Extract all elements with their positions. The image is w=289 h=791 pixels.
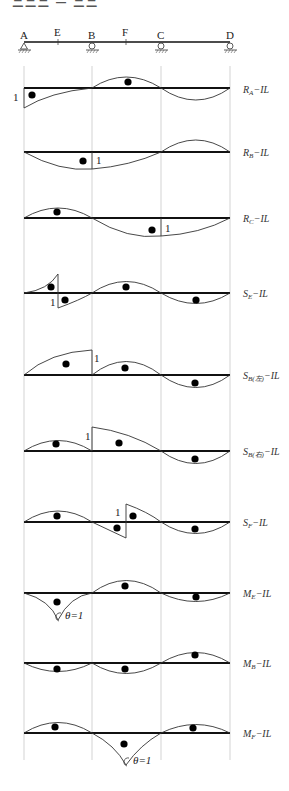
diagram-label-sb-left: SB(左)−IL	[243, 370, 280, 383]
diagram-me-il: θ=1 ME−IL	[24, 581, 272, 622]
diagram-label-ra: RA−IL	[242, 84, 269, 97]
plus-sign-icon	[79, 157, 86, 164]
diagram-sf-il: 1 SF−IL	[24, 504, 268, 538]
minus-sign-icon	[62, 360, 69, 367]
minus-sign-icon	[129, 512, 136, 519]
plus-sign-icon	[113, 524, 120, 531]
diagram-label-se: SE−IL	[243, 288, 268, 301]
minus-sign-icon	[120, 740, 127, 747]
minus-sign-icon	[121, 582, 128, 589]
diagram-label-sb-right: SB(右)−IL	[243, 446, 280, 459]
point-label-e: E	[54, 26, 61, 38]
roller-support-b-icon	[86, 43, 99, 53]
diagram-rb-il: 1 RB−IL	[24, 140, 269, 169]
diagram-label-sf: SF−IL	[243, 517, 268, 530]
rc-unit-label: 1	[165, 222, 171, 234]
plus-sign-icon	[61, 296, 68, 303]
diagram-label-me: ME−IL	[242, 588, 272, 601]
support-guide-lines	[24, 66, 230, 760]
ra-unit-label: 1	[13, 91, 19, 103]
point-labels: A E B F C D	[20, 26, 234, 41]
sb-right-unit-label: 1	[85, 430, 91, 442]
rb-unit-label: 1	[96, 154, 102, 166]
plus-sign-icon	[192, 296, 199, 303]
diagram-label-mf: MF−IL	[242, 728, 272, 741]
influence-line-diagram: A E B F C D	[0, 0, 289, 791]
diagram-label-mb: MB−IL	[242, 658, 272, 671]
roller-support-d-icon	[224, 43, 237, 53]
plus-sign-icon	[191, 379, 198, 386]
minus-sign-icon	[121, 364, 128, 371]
diagram-mb-il: MB−IL	[24, 651, 272, 673]
plus-sign-icon	[191, 651, 198, 658]
plus-sign-icon	[189, 724, 196, 731]
minus-sign-icon	[53, 665, 60, 672]
diagram-se-il: 1 SE−IL	[24, 274, 268, 308]
point-label-f: F	[122, 26, 128, 38]
beam-structure: A E B F C D	[18, 26, 237, 53]
sf-unit-label: 1	[115, 506, 121, 518]
minus-sign-icon	[52, 440, 59, 447]
plus-sign-icon	[148, 226, 155, 233]
plus-sign-icon	[53, 598, 60, 605]
se-unit-label: 1	[50, 296, 56, 308]
diagram-rc-il: 1 RC−IL	[24, 208, 270, 237]
mf-theta-label: θ=1	[133, 754, 151, 766]
diagram-label-rb: RB−IL	[242, 147, 269, 160]
plus-sign-icon	[191, 525, 198, 532]
minus-sign-icon	[47, 283, 54, 290]
pin-support-a-icon	[18, 43, 31, 53]
diagram-sb-right-il: 1 SB(右)−IL	[24, 427, 280, 464]
point-label-a: A	[20, 29, 28, 41]
me-theta-label: θ=1	[65, 609, 83, 621]
diagram-mf-il: θ=1 MF−IL	[24, 723, 272, 767]
plus-sign-icon	[192, 593, 199, 600]
plus-sign-icon	[115, 439, 122, 446]
point-label-d: D	[226, 29, 234, 41]
plus-sign-icon	[51, 723, 58, 730]
minus-sign-icon	[124, 78, 131, 85]
point-label-c: C	[157, 29, 164, 41]
minus-sign-icon	[53, 512, 60, 519]
sb-left-unit-label: 1	[94, 352, 100, 364]
minus-sign-icon	[121, 665, 128, 672]
diagram-ra-il: 1 RA−IL	[13, 77, 269, 108]
diagram-sb-left-il: 1 SB(左)−IL	[24, 350, 280, 388]
plus-sign-icon	[28, 91, 35, 98]
minus-sign-icon	[53, 208, 60, 215]
minus-sign-icon	[191, 455, 198, 462]
minus-sign-icon	[122, 283, 129, 290]
roller-support-c-icon	[155, 43, 168, 53]
diagram-label-rc: RC−IL	[242, 213, 270, 226]
point-label-b: B	[88, 29, 95, 41]
